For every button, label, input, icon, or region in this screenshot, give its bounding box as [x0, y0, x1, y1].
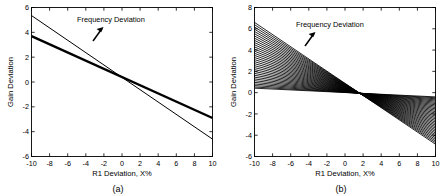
up-right-arrow-icon [93, 27, 104, 41]
y-tick-label: 0 [248, 88, 252, 97]
x-tick-label: 6 [397, 159, 401, 168]
panel-a: -10-8-6-4-20246810 -6-4-20246 Frequency … [0, 0, 223, 196]
data-lines-a [32, 16, 213, 140]
annotation-frequency-deviation-a: Frequency Deviation [77, 15, 145, 24]
y-tick-label: 2 [25, 53, 29, 62]
y-tick-labels-a: -6-4-20246 [23, 3, 29, 161]
data-lines-b [255, 22, 436, 144]
x-tick-label: -4 [306, 159, 312, 168]
panel-a-axes: -10-8-6-4-20246810 -6-4-20246 [23, 3, 217, 168]
x-tick-label: 10 [432, 159, 440, 168]
caption-b: (b) [336, 184, 347, 194]
data-line [255, 22, 436, 144]
x-tick-label: 4 [379, 159, 383, 168]
y-tick-label: -6 [246, 152, 252, 161]
y-tick-label: -4 [246, 131, 252, 140]
x-axis-label-a: R1 Deviation, X% [92, 169, 152, 178]
x-tick-label: 0 [120, 159, 124, 168]
x-tick-label: -8 [46, 159, 52, 168]
y-tick-label: 6 [248, 24, 252, 33]
x-axis-label-b: R1 Deviation, X% [315, 169, 375, 178]
y-tick-label: 6 [25, 3, 29, 12]
y-tick-label: 8 [248, 3, 252, 12]
plot-frame-b [255, 8, 436, 157]
x-tick-label: -8 [269, 159, 275, 168]
x-tick-label: 8 [192, 159, 196, 168]
y-tick-label: -2 [23, 102, 29, 111]
up-right-arrow-icon [305, 32, 316, 46]
y-tick-label: 4 [25, 28, 29, 37]
plot-frame-a [32, 8, 213, 157]
caption-a: (a) [113, 184, 124, 194]
panel-a-svg: -10-8-6-4-20246810 -6-4-20246 Frequency … [0, 0, 223, 196]
y-tick-label: 4 [248, 46, 252, 55]
y-axis-label-b: Gain Deviation [229, 57, 238, 107]
y-tick-label: -6 [23, 152, 29, 161]
x-tick-label: 6 [174, 159, 178, 168]
y-tick-label: 2 [248, 67, 252, 76]
x-tick-labels-b: -10-8-6-4-20246810 [249, 159, 439, 168]
x-tick-label: 0 [343, 159, 347, 168]
axis-ticks-a [32, 8, 213, 157]
x-tick-label: 10 [209, 159, 217, 168]
y-tick-label: 0 [25, 78, 29, 87]
x-tick-label: -6 [64, 159, 70, 168]
y-axis-label-a: Gain Deviation [6, 57, 15, 107]
x-tick-label: 4 [156, 159, 160, 168]
axis-ticks-b [255, 8, 436, 157]
x-tick-label: -2 [324, 159, 330, 168]
y-tick-label: -4 [23, 127, 29, 136]
panel-b-svg: -10-8-6-4-20246810 -6-4-202468 Frequency… [223, 0, 446, 196]
x-tick-label: 2 [138, 159, 142, 168]
y-tick-label: -2 [246, 110, 252, 119]
x-tick-label: -4 [83, 159, 89, 168]
figure-container: -10-8-6-4-20246810 -6-4-20246 Frequency … [0, 0, 446, 196]
panel-b: -10-8-6-4-20246810 -6-4-202468 Frequency… [223, 0, 446, 196]
x-tick-label: 2 [361, 159, 365, 168]
y-tick-labels-b: -6-4-202468 [246, 3, 252, 161]
x-tick-label: -6 [287, 159, 293, 168]
x-tick-label: -2 [101, 159, 107, 168]
x-tick-label: 8 [415, 159, 419, 168]
x-tick-labels-a: -10-8-6-4-20246810 [26, 159, 216, 168]
data-line [32, 36, 213, 118]
annotation-frequency-deviation-b: Frequency Deviation [296, 20, 364, 29]
